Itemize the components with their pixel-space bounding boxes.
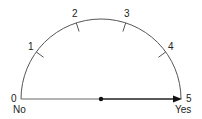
center-dot — [99, 97, 103, 101]
scale-label-3: 3 — [124, 8, 130, 19]
scale-label-1: 1 — [28, 41, 34, 52]
yes-label: Yes — [175, 104, 191, 115]
scale-label-5: 5 — [186, 93, 192, 104]
tick-3 — [123, 23, 126, 32]
scale-label-0: 0 — [11, 93, 17, 104]
no-label: No — [13, 104, 26, 115]
tick-2 — [76, 23, 79, 32]
scale-label-2: 2 — [72, 8, 78, 19]
scale-diagram: 0 1 2 3 4 5 No Yes — [0, 0, 202, 119]
scale-label-4: 4 — [168, 41, 174, 52]
tick-4 — [158, 52, 165, 57]
tick-1 — [36, 52, 43, 57]
scale-arc — [21, 19, 181, 99]
